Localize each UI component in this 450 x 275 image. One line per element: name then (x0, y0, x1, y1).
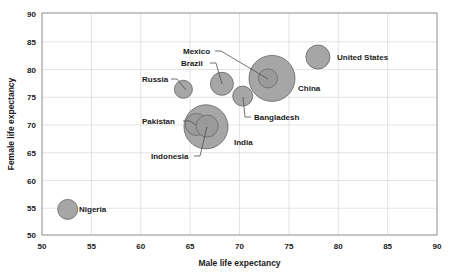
x-tick-90: 90 (433, 242, 442, 251)
bubble-bangladesh[interactable] (233, 86, 253, 106)
label-brazil: Brazil (181, 59, 203, 68)
x-tick-85: 85 (383, 242, 392, 251)
label-china: China (298, 84, 321, 93)
x-axis-ticks: 50 55 60 65 70 75 80 85 90 (38, 242, 442, 251)
bubble-indonesia[interactable] (196, 115, 218, 137)
x-tick-70: 70 (235, 242, 244, 251)
y-tick-75: 75 (27, 93, 36, 102)
label-mexico: Mexico (183, 47, 210, 56)
label-russia: Russia (142, 75, 169, 84)
y-tick-80: 80 (27, 66, 36, 75)
x-tick-55: 55 (87, 242, 96, 251)
bubble-nigeria[interactable] (58, 199, 78, 219)
label-india: India (234, 138, 253, 147)
x-tick-75: 75 (284, 242, 293, 251)
y-tick-65: 65 (27, 149, 36, 158)
label-indonesia: Indonesia (151, 152, 189, 161)
y-tick-55: 55 (27, 204, 36, 213)
y-tick-70: 70 (27, 121, 36, 130)
bubble-labels: Nigeria Russia Pakistan Indonesia India … (79, 47, 389, 214)
y-axis-ticks: 50 55 60 65 70 75 80 85 90 (27, 10, 36, 240)
bubble-chart: Nigeria Russia Pakistan Indonesia India … (0, 0, 450, 275)
y-tick-90: 90 (27, 10, 36, 19)
label-pakistan: Pakistan (142, 117, 175, 126)
x-tick-50: 50 (38, 242, 47, 251)
x-axis-title: Male life expectancy (198, 258, 280, 268)
y-tick-50: 50 (27, 231, 36, 240)
x-tick-80: 80 (334, 242, 343, 251)
vertical-gridlines (91, 13, 387, 235)
label-bangladesh: Bangladesh (254, 113, 299, 122)
x-tick-65: 65 (186, 242, 195, 251)
x-tick-60: 60 (136, 242, 145, 251)
bubble-united-states[interactable] (306, 45, 330, 69)
y-axis-title: Female life expectancy (6, 77, 16, 170)
bubble-mexico[interactable] (259, 69, 278, 88)
chart-canvas: Nigeria Russia Pakistan Indonesia India … (0, 0, 450, 275)
label-united-states: United States (337, 53, 389, 62)
y-tick-60: 60 (27, 177, 36, 186)
label-nigeria: Nigeria (79, 205, 107, 214)
bubble-russia[interactable] (174, 80, 192, 98)
y-tick-85: 85 (27, 38, 36, 47)
